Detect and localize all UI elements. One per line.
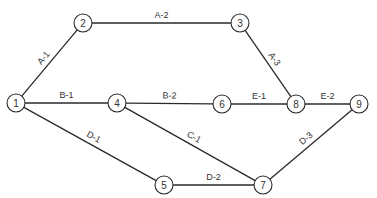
node-2: 2 — [74, 14, 92, 32]
node-label: 1 — [13, 98, 19, 109]
node-8: 8 — [287, 95, 305, 113]
node-1: 1 — [7, 94, 25, 112]
node-label: 4 — [114, 98, 120, 109]
edge-4-7 — [125, 107, 255, 180]
node-9: 9 — [350, 95, 368, 113]
node-label: 6 — [219, 99, 225, 110]
edge-7-9 — [270, 110, 352, 179]
network-diagram: A-1A-2A-3B-1B-2C-1D-1D-2D-3E-1E-2 123456… — [0, 0, 377, 198]
node-5: 5 — [155, 176, 173, 194]
edge-4-6 — [126, 103, 213, 104]
edge-1-2 — [22, 30, 77, 96]
node-label: 9 — [356, 99, 362, 110]
node-4: 4 — [108, 94, 126, 112]
node-6: 6 — [213, 95, 231, 113]
edge-label: B-1 — [59, 90, 73, 100]
edge-label: D-2 — [206, 172, 221, 182]
node-label: 5 — [161, 180, 167, 191]
edge-3-8 — [245, 30, 291, 96]
edge-label: B-2 — [163, 90, 177, 100]
node-label: 3 — [237, 18, 243, 29]
node-3: 3 — [231, 14, 249, 32]
edge-label: A-2 — [154, 10, 168, 20]
edge-label: E-2 — [320, 91, 334, 101]
node-label: 2 — [80, 18, 86, 29]
node-label: 8 — [293, 99, 299, 110]
edge-label: E-1 — [252, 91, 266, 101]
node-label: 7 — [260, 180, 266, 191]
edge-labels-layer: A-1A-2A-3B-1B-2C-1D-1D-2D-3E-1E-2 — [35, 10, 334, 182]
node-7: 7 — [254, 176, 272, 194]
edge-1-5 — [24, 107, 156, 180]
